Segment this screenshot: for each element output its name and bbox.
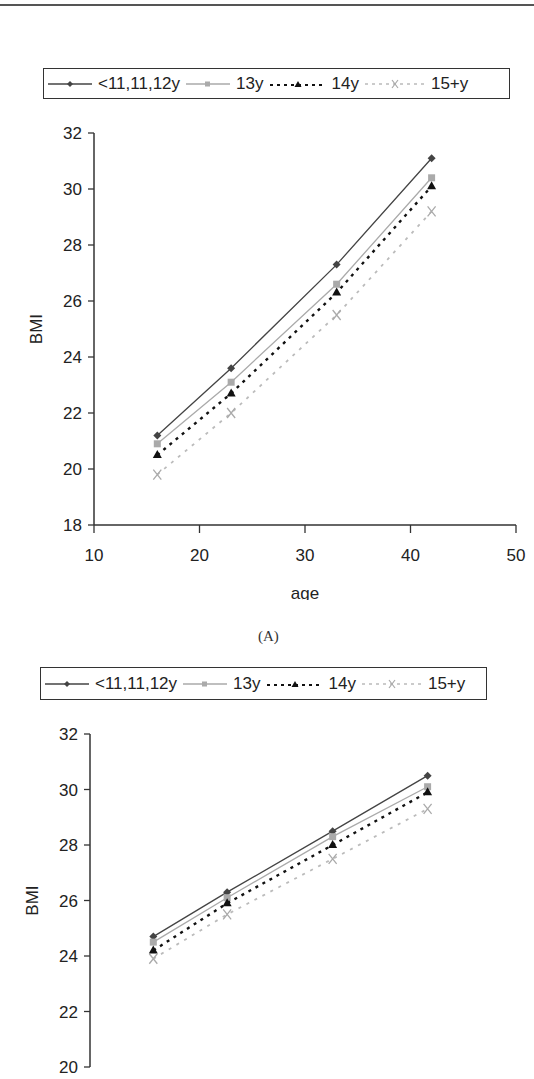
- axes: 20222426283032BMI: [23, 725, 90, 1077]
- series-2: [149, 787, 432, 953]
- chart-b-plot: 20222426283032BMI: [0, 0, 534, 1079]
- y-tick-label: 20: [59, 1058, 78, 1077]
- data-point: [329, 854, 337, 864]
- data-point: [328, 840, 337, 848]
- data-point: [424, 804, 432, 814]
- data-point: [150, 939, 157, 946]
- y-tick-label: 22: [59, 1003, 78, 1022]
- y-tick-label: 30: [59, 781, 78, 800]
- y-tick-label: 26: [59, 892, 78, 911]
- data-point: [329, 833, 336, 840]
- data-point: [223, 909, 231, 919]
- data-point: [149, 945, 158, 953]
- y-tick-label: 28: [59, 836, 78, 855]
- data-point: [424, 772, 432, 780]
- data-point: [149, 954, 157, 964]
- y-tick-label: 24: [59, 947, 78, 966]
- series-3: [149, 804, 431, 964]
- series-1: [150, 783, 431, 945]
- y-axis-title: BMI: [23, 885, 42, 915]
- y-tick-label: 32: [59, 725, 78, 744]
- series-0: [149, 772, 431, 941]
